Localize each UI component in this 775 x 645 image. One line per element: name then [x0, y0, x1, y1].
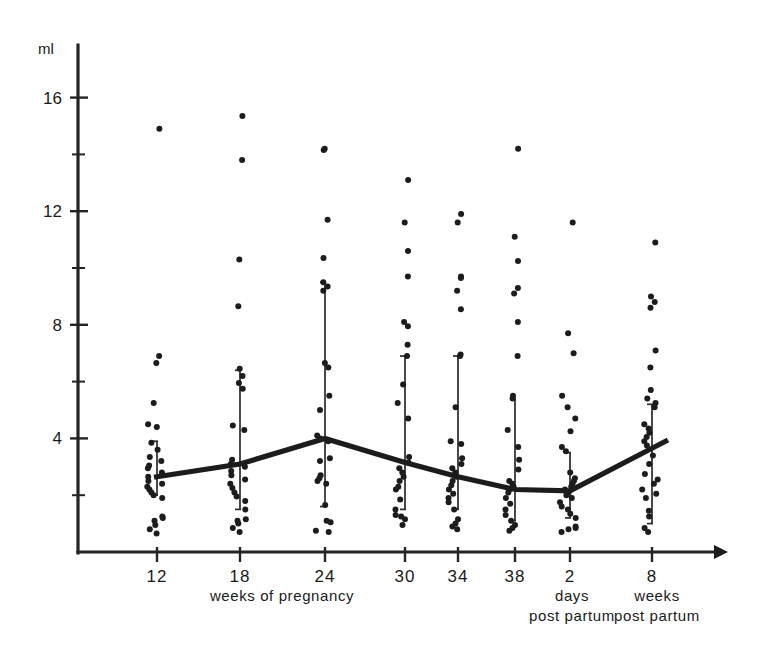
data-point [240, 386, 246, 392]
data-point [647, 364, 653, 370]
data-point [242, 506, 248, 512]
data-point [326, 529, 332, 535]
data-point [503, 495, 509, 501]
data-point [515, 444, 521, 450]
data-point [448, 438, 454, 444]
data-point [145, 465, 151, 471]
data-point [648, 293, 654, 299]
data-point [454, 288, 460, 294]
y-tick-label: 8 [53, 316, 62, 335]
data-point [446, 487, 452, 493]
data-point [505, 427, 511, 433]
data-point [405, 323, 411, 329]
data-point [507, 501, 513, 507]
data-point [240, 373, 246, 379]
data-point [241, 427, 247, 433]
data-point [515, 285, 521, 291]
data-point [563, 448, 569, 454]
data-point [648, 305, 654, 311]
x-axis-ticks [157, 547, 652, 562]
data-point [646, 514, 652, 520]
x-axis-arrowhead [714, 545, 728, 559]
data-point [559, 393, 565, 399]
data-point [510, 396, 516, 402]
data-point [458, 211, 464, 217]
data-point [315, 478, 321, 484]
data-point [404, 353, 410, 359]
data-point [458, 441, 464, 447]
data-point [328, 519, 334, 525]
data-point [153, 360, 159, 366]
data-point [400, 381, 406, 387]
data-point [446, 499, 452, 505]
data-point [515, 146, 521, 152]
data-point [325, 364, 331, 370]
data-point [152, 522, 158, 528]
data-point [457, 353, 463, 359]
data-point [397, 478, 403, 484]
data-point [148, 440, 154, 446]
data-point [515, 258, 521, 264]
data-point [458, 306, 464, 312]
data-point [573, 515, 579, 521]
data-point [147, 526, 153, 532]
data-point [559, 529, 565, 535]
y-tick-label: 12 [43, 202, 62, 221]
data-point [235, 521, 241, 527]
x-tick-label: 34 [448, 567, 469, 586]
data-point [651, 481, 657, 487]
data-point [393, 506, 399, 512]
data-point [327, 455, 333, 461]
data-point [458, 461, 464, 467]
data-point [515, 467, 521, 473]
data-point [405, 248, 411, 254]
data-point [242, 498, 248, 504]
data-point [567, 511, 573, 517]
data-point [320, 288, 326, 294]
data-point [565, 330, 571, 336]
data-point [646, 508, 652, 514]
data-points-group [144, 113, 660, 536]
data-point [652, 299, 658, 305]
data-point [503, 512, 509, 518]
x-axis-caption-weeks-line2: post partum [614, 607, 700, 624]
data-point [405, 342, 411, 348]
data-point [228, 472, 234, 478]
x-axis-caption-pregnancy: weeks of pregnancy [209, 587, 354, 604]
data-point [646, 461, 652, 467]
data-point [506, 528, 512, 534]
x-tick-label: 38 [505, 567, 526, 586]
data-point [239, 157, 245, 163]
data-point [156, 353, 162, 359]
data-point [405, 416, 411, 422]
data-point [573, 525, 579, 531]
data-point [645, 529, 651, 535]
data-point [568, 428, 574, 434]
data-point [230, 423, 236, 429]
data-point [402, 516, 408, 522]
data-point [559, 504, 565, 510]
data-point [516, 457, 522, 463]
data-point [405, 274, 411, 280]
data-point [236, 257, 242, 263]
data-point [159, 481, 165, 487]
x-tick-label: 18 [230, 567, 251, 586]
y-axis-tick-labels: 481216 [43, 89, 62, 449]
data-point [325, 284, 331, 290]
data-point [652, 404, 658, 410]
data-point [145, 421, 151, 427]
data-point [400, 522, 406, 528]
data-point [326, 393, 332, 399]
data-point [145, 478, 151, 484]
data-point [454, 526, 460, 532]
data-point [154, 531, 160, 537]
data-point [453, 404, 459, 410]
x-axis-caption-weeks-line1: weeks [633, 587, 680, 604]
data-point [515, 319, 521, 325]
data-point [151, 492, 157, 498]
data-point [570, 220, 576, 226]
data-point [237, 366, 243, 372]
chart-figure: 481216 ml 12182430343828 weeks of pregna… [0, 0, 775, 645]
data-point [451, 506, 457, 512]
data-point [650, 452, 656, 458]
